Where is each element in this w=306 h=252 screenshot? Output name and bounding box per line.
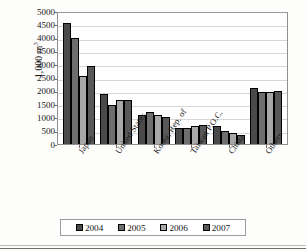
bar-group — [63, 13, 95, 144]
legend-item[interactable]: 2004 — [76, 223, 103, 233]
bar[interactable] — [250, 88, 258, 144]
y-tick-label: 1500 — [19, 101, 55, 110]
bar-group — [100, 13, 132, 144]
page-rule-bottom — [0, 248, 306, 249]
bar[interactable] — [175, 128, 183, 144]
page-rule-top — [0, 245, 306, 246]
y-tick-label: 5000 — [19, 8, 55, 17]
chart-legend: 2004200520062007 — [60, 219, 246, 236]
legend-label: 2006 — [169, 223, 187, 233]
bar-group — [250, 13, 282, 144]
legend-item[interactable]: 2007 — [203, 223, 230, 233]
y-tick-label: 4000 — [19, 34, 55, 43]
bar[interactable] — [71, 38, 79, 144]
bar-group — [138, 13, 170, 144]
y-tick-label: 3000 — [19, 61, 55, 70]
chart-figure: 1,000 m3 5000450040003500300025002000150… — [0, 0, 306, 252]
bar-group — [213, 13, 245, 144]
y-axis-tick-labels: 5000450040003500300025002000150010005000 — [12, 12, 55, 145]
y-tick-label: 2000 — [19, 87, 55, 96]
bar[interactable] — [63, 23, 71, 144]
legend-label: 2004 — [85, 223, 103, 233]
legend-label: 2007 — [212, 223, 230, 233]
y-tick-label: 2500 — [19, 74, 55, 83]
legend-swatch-icon — [118, 224, 125, 231]
legend-swatch-icon — [203, 224, 210, 231]
legend-item[interactable]: 2005 — [118, 223, 145, 233]
x-axis-category-labels: JapanUnited StatesKorea, Rep. ofTaiwan P… — [57, 146, 288, 212]
legend-swatch-icon — [76, 224, 83, 231]
y-tick-label: 1000 — [19, 114, 55, 123]
bar[interactable] — [183, 128, 191, 144]
y-tick-label: 3500 — [19, 47, 55, 56]
legend-label: 2005 — [127, 223, 145, 233]
y-tick-label: 500 — [19, 127, 55, 136]
bar[interactable] — [87, 66, 95, 144]
bar[interactable] — [100, 94, 108, 144]
legend-item[interactable]: 2006 — [160, 223, 187, 233]
bar[interactable] — [108, 105, 116, 144]
bar[interactable] — [221, 131, 229, 144]
legend-swatch-icon — [160, 224, 167, 231]
bar[interactable] — [258, 92, 266, 144]
y-tick-label: 0 — [19, 141, 55, 150]
y-tick-label: 4500 — [19, 21, 55, 30]
